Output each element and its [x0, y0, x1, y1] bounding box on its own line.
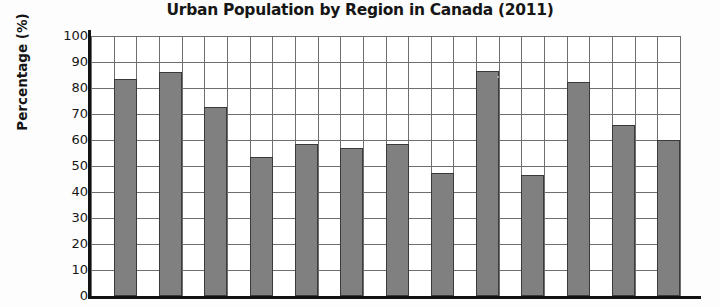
y-axis-line — [88, 30, 91, 299]
bar — [612, 125, 635, 296]
y-tick-label: 90 — [46, 55, 88, 69]
bar — [521, 175, 544, 296]
y-axis-tick-labels: 100 90 80 70 60 50 40 30 20 10 0 — [46, 0, 88, 307]
y-tick-label: 60 — [46, 133, 88, 147]
y-tick-label: 50 — [46, 159, 88, 173]
y-tick-label: 30 — [46, 211, 88, 225]
y-tick-label: 20 — [46, 237, 88, 251]
y-tick-label: 40 — [46, 185, 88, 199]
y-axis-title: Percentage (%) — [14, 4, 30, 140]
bar — [431, 173, 454, 296]
bar — [250, 157, 273, 296]
y-tick-label: 70 — [46, 107, 88, 121]
bar — [159, 72, 182, 296]
bar — [295, 144, 318, 296]
bar-series — [91, 36, 680, 296]
bar — [567, 82, 590, 296]
y-tick-label: 100 — [46, 29, 88, 43]
bar — [386, 144, 409, 296]
bar — [340, 148, 363, 296]
y-tick-label: 80 — [46, 81, 88, 95]
gridline-vertical — [680, 36, 681, 296]
chart-container: Urban Population by Region in Canada (20… — [0, 0, 720, 307]
bar — [204, 107, 227, 296]
scan-speck — [497, 76, 499, 78]
y-tick-label: 10 — [46, 263, 88, 277]
bar — [114, 79, 137, 296]
bar — [657, 140, 680, 296]
chart-title: Urban Population by Region in Canada (20… — [0, 1, 720, 19]
bar — [476, 71, 499, 296]
y-tick-label: 0 — [46, 289, 88, 303]
x-axis-line — [88, 296, 701, 299]
